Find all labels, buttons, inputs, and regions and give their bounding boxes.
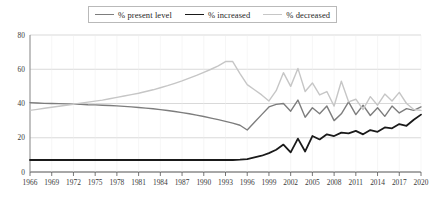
x-tick-label: 2008 <box>327 178 342 187</box>
x-tick-label: 1993 <box>218 178 233 187</box>
x-tick-label: 2017 <box>392 178 407 187</box>
y-tick-label: 0 <box>21 168 25 177</box>
x-tick-label: 2014 <box>370 178 385 187</box>
x-tick-label: 1966 <box>23 178 38 187</box>
y-tick-label: 40 <box>18 99 26 108</box>
x-tick-label: 1984 <box>153 178 168 187</box>
x-tick-label: 1969 <box>44 178 59 187</box>
x-tick-label: 2002 <box>283 178 298 187</box>
x-tick-label: 1981 <box>131 178 146 187</box>
y-tick-label: 20 <box>18 133 26 142</box>
x-tick-label: 1999 <box>262 178 277 187</box>
x-tick-label: 2020 <box>414 178 429 187</box>
line-chart-svg: 0204060801966196919721975197819811984198… <box>0 0 436 197</box>
x-tick-label: 1972 <box>66 178 81 187</box>
plot-area: 0204060801966196919721975197819811984198… <box>0 0 436 197</box>
x-tick-label: 1975 <box>88 178 103 187</box>
x-tick-label: 1996 <box>240 178 255 187</box>
x-tick-label: 1990 <box>196 178 211 187</box>
x-tick-label: 2005 <box>305 178 320 187</box>
y-tick-label: 80 <box>18 31 26 40</box>
y-tick-label: 60 <box>18 65 26 74</box>
x-tick-label: 1978 <box>109 178 124 187</box>
x-tick-label: 2011 <box>349 178 364 187</box>
chart-root: % present level % increased % decreased … <box>0 0 436 197</box>
x-tick-label: 1987 <box>175 178 190 187</box>
